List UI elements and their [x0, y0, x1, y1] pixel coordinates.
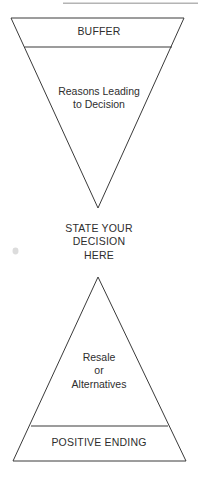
diagram-root: BUFFER Reasons Leading to Decision STATE…	[0, 0, 198, 487]
diagram-canvas	[0, 0, 198, 487]
scan-artifact-speck	[13, 248, 19, 255]
lower-upright-triangle	[13, 277, 186, 461]
